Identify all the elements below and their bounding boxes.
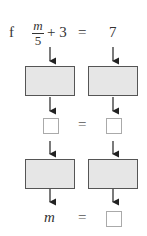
flow-arrows [0, 0, 147, 236]
operation-box-right-1[interactable] [88, 66, 138, 96]
operation-box-left-1[interactable] [25, 66, 75, 96]
answer-box-final[interactable] [106, 211, 122, 227]
operation-box-right-2[interactable] [88, 159, 138, 189]
middle-equals: = [78, 116, 86, 133]
final-equals: = [78, 209, 86, 226]
final-variable: m [44, 209, 55, 226]
answer-box-right-1[interactable] [106, 118, 122, 134]
operation-box-left-2[interactable] [25, 159, 75, 189]
answer-box-left-1[interactable] [43, 118, 59, 134]
